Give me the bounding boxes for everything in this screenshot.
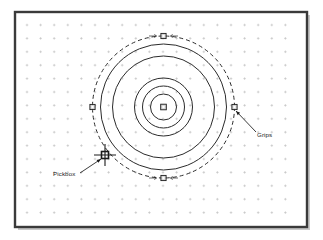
- grip-north-inner: [163, 35, 165, 37]
- grip-east-inner: [234, 106, 236, 108]
- annotation-label-pickbox: Pickbox: [53, 170, 76, 177]
- grip-south-inner: [163, 177, 165, 179]
- cad-canvas[interactable]: Pickbox Grips: [0, 0, 323, 240]
- grip-center-inner: [162, 106, 164, 108]
- cad-figure: Pickbox Grips: [0, 0, 323, 240]
- annotation-label-grips: Grips: [257, 131, 272, 138]
- grip-west-inner: [92, 106, 94, 108]
